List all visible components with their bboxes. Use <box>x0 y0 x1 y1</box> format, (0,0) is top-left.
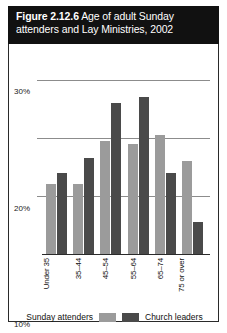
legend-swatch-sunday-attenders <box>99 313 116 322</box>
bar <box>57 173 67 254</box>
x-axis-tick-label: 75 or over <box>177 258 186 292</box>
x-label-slot: Under 35 <box>46 256 70 312</box>
legend-label-sunday-attenders: Sunday attenders <box>26 312 93 322</box>
bar <box>166 173 176 254</box>
chart-legend: Sunday attenders Church leaders <box>9 312 220 322</box>
x-axis-tick-label: Under 35 <box>42 258 51 289</box>
y-tick-label-30: 30% <box>14 87 30 96</box>
bar <box>128 144 138 254</box>
x-axis-tick-label: 45–54 <box>102 258 111 279</box>
x-axis-tick-label: 65–74 <box>156 258 165 279</box>
legend-swatch-church-leaders <box>122 313 139 322</box>
x-label-slot: 45–54 <box>100 256 124 312</box>
bar <box>46 184 56 254</box>
figure-title-bar: Figure 2.12.6 Age of adult Sunday attend… <box>8 6 219 44</box>
page-title: Figure 2.12.6 Age of adult Sunday attend… <box>16 10 211 36</box>
bar <box>84 158 94 254</box>
bar <box>155 135 165 254</box>
bar-group <box>182 161 206 254</box>
bar-group <box>155 135 179 254</box>
bar-group <box>100 103 124 254</box>
bar-groups <box>42 68 210 254</box>
bar <box>100 141 110 254</box>
bar-group <box>46 173 70 254</box>
bar-group <box>128 97 152 254</box>
legend-label-church-leaders: Church leaders <box>145 312 203 322</box>
x-axis-tick-label: 35–44 <box>75 258 84 279</box>
bar <box>182 161 192 254</box>
chart-frame: 10%20%30% Under 3535–4445–5455–6465–7475… <box>8 44 219 322</box>
plot-area: 10%20%30% <box>42 68 210 254</box>
x-label-slot: 35–44 <box>73 256 97 312</box>
x-label-slot: 55–64 <box>128 256 152 312</box>
bar <box>111 103 121 254</box>
x-label-slot: 75 or over <box>182 256 206 312</box>
figure-container: Figure 2.12.6 Age of adult Sunday attend… <box>8 6 219 322</box>
x-label-slot: 65–74 <box>155 256 179 312</box>
x-axis-line <box>42 254 210 255</box>
bar-group <box>73 158 97 254</box>
x-axis-labels: Under 3535–4445–5455–6465–7475 or over <box>42 256 210 312</box>
bar <box>193 222 203 254</box>
bar <box>73 184 83 254</box>
bar <box>139 97 149 254</box>
figure-number: Figure 2.12.6 <box>16 10 79 22</box>
y-tick-label-20: 20% <box>14 203 30 212</box>
x-axis-tick-label: 55–64 <box>129 258 138 279</box>
